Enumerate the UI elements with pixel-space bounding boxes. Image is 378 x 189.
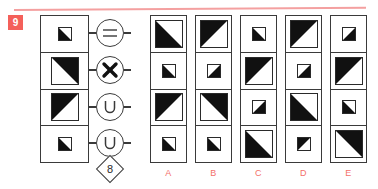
square-big xyxy=(200,20,228,48)
option-label: B xyxy=(195,168,232,178)
answer-options: ABCDE xyxy=(150,15,367,178)
square-small xyxy=(252,100,266,114)
union-icon xyxy=(96,129,124,157)
option-label: E xyxy=(330,168,367,178)
square-small xyxy=(252,27,266,41)
option-frame[interactable] xyxy=(330,15,367,163)
option-frame[interactable] xyxy=(240,15,277,163)
connector-right xyxy=(124,32,131,33)
square-small xyxy=(162,137,176,151)
square-big xyxy=(290,93,318,121)
square-big xyxy=(51,93,79,121)
square-big xyxy=(335,57,363,85)
header-rule xyxy=(14,7,366,11)
diamond-marker: 8 xyxy=(98,157,122,181)
square-big xyxy=(335,130,363,158)
triangle-upper-left-icon xyxy=(253,28,265,40)
cross-icon xyxy=(96,56,124,84)
triangle-upper-left-icon xyxy=(163,138,175,150)
equals-operator xyxy=(96,19,124,47)
square-big xyxy=(245,57,273,85)
option-frame[interactable] xyxy=(285,15,322,163)
option-e-cell-1 xyxy=(331,16,366,53)
square-big xyxy=(200,93,228,121)
square-small xyxy=(342,100,356,114)
question-sequence xyxy=(40,15,89,163)
answer-option-a[interactable]: A xyxy=(150,15,187,178)
option-frame[interactable] xyxy=(150,15,187,163)
option-a-cell-4 xyxy=(151,126,186,162)
answer-option-b[interactable]: B xyxy=(195,15,232,178)
stem-cell-4 xyxy=(41,126,88,162)
operator-column: 8 xyxy=(89,15,135,185)
triangle-upper-left-icon xyxy=(291,94,317,120)
triangle-upper-left-icon xyxy=(59,138,71,150)
option-a-cell-3 xyxy=(151,90,186,127)
triangle-lower-right-icon xyxy=(201,21,227,47)
triangle-lower-right-icon xyxy=(156,94,182,120)
connector-right xyxy=(124,142,131,143)
puzzle-page: 9 8 ABCDE xyxy=(0,0,378,189)
square-small xyxy=(297,64,311,78)
triangle-upper-left-icon xyxy=(246,131,272,157)
option-e-cell-3 xyxy=(331,90,366,127)
triangle-lower-right-icon xyxy=(246,58,272,84)
option-label: A xyxy=(150,168,187,178)
square-big xyxy=(51,57,79,85)
stem-cell-1 xyxy=(41,16,88,53)
square-small xyxy=(162,64,176,78)
triangle-upper-left-icon xyxy=(59,28,71,40)
connector-left xyxy=(89,32,96,33)
option-frame[interactable] xyxy=(195,15,232,163)
square-small xyxy=(342,27,356,41)
triangle-lower-left-icon xyxy=(52,58,78,84)
triangle-upper-left-icon xyxy=(208,138,220,150)
option-b-cell-4 xyxy=(196,126,231,162)
connector-left xyxy=(89,69,96,70)
triangle-upper-right-icon xyxy=(343,28,355,40)
answer-option-d[interactable]: D xyxy=(285,15,322,178)
triangle-lower-left-icon xyxy=(201,94,227,120)
triangle-lower-right-icon xyxy=(298,138,310,150)
triangle-lower-right-icon xyxy=(336,58,362,84)
stem-cell-2 xyxy=(41,53,88,90)
square-small xyxy=(207,64,221,78)
triangle-upper-right-icon xyxy=(298,65,310,77)
connector-right xyxy=(124,106,131,107)
union-icon xyxy=(96,93,124,121)
option-d-cell-3 xyxy=(286,90,321,127)
stem-cell-3 xyxy=(41,90,88,127)
triangle-upper-left-icon xyxy=(156,21,182,47)
option-c-cell-1 xyxy=(241,16,276,53)
diamond-value: 8 xyxy=(98,157,122,181)
union-operator xyxy=(96,93,124,121)
answer-option-c[interactable]: C xyxy=(240,15,277,178)
triangle-upper-right-icon xyxy=(208,65,220,77)
square-small xyxy=(58,137,72,151)
square-big xyxy=(155,93,183,121)
answer-option-e[interactable]: E xyxy=(330,15,367,178)
square-small xyxy=(297,137,311,151)
cross-operator xyxy=(96,56,124,84)
option-e-cell-2 xyxy=(331,53,366,90)
option-d-cell-1 xyxy=(286,16,321,53)
union-operator-2 xyxy=(96,129,124,157)
triangle-upper-right-icon xyxy=(253,101,265,113)
triangle-upper-left-icon xyxy=(163,65,175,77)
connector-left xyxy=(89,142,96,143)
puzzle-number-badge: 9 xyxy=(8,15,23,30)
equals-icon xyxy=(96,19,124,47)
triangle-upper-left-icon xyxy=(343,101,355,113)
connector-right xyxy=(124,69,131,70)
square-big xyxy=(245,130,273,158)
option-b-cell-2 xyxy=(196,53,231,90)
option-a-cell-1 xyxy=(151,16,186,53)
square-small xyxy=(207,137,221,151)
option-d-cell-2 xyxy=(286,53,321,90)
square-big xyxy=(290,20,318,48)
option-e-cell-4 xyxy=(331,126,366,162)
option-d-cell-4 xyxy=(286,126,321,162)
option-label: C xyxy=(240,168,277,178)
triangle-lower-right-icon xyxy=(291,21,317,47)
option-label: D xyxy=(285,168,322,178)
